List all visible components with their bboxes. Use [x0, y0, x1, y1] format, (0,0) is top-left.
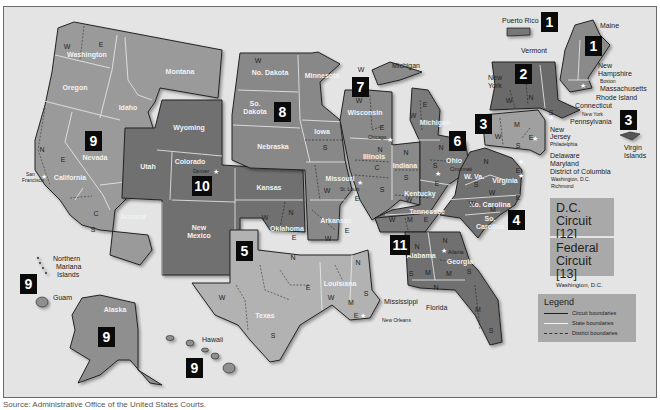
star-icon: ★ [357, 179, 363, 186]
label-vermont: Vermont [521, 47, 547, 54]
federal-circuit-title-2: Circuit [13] [556, 255, 608, 281]
label-maine: Maine [600, 22, 619, 29]
svg-text:N: N [528, 94, 533, 101]
svg-text:W: W [328, 294, 335, 301]
label-northern-mariana-2: Mariana [56, 263, 81, 270]
label-new-mexico-2: Mexico [187, 232, 211, 239]
dashed-line-icon [544, 333, 568, 334]
svg-text:E: E [355, 195, 360, 202]
label-denver: Denver [193, 168, 209, 174]
circuit-badge-6: 6 [449, 131, 466, 151]
circuit-badge-7: 7 [352, 77, 369, 97]
svg-text:W: W [356, 97, 363, 104]
label-philadelphia: Philadelphia [550, 141, 577, 147]
label-missouri: Missouri [326, 175, 355, 182]
label-washington: Washington [67, 51, 107, 59]
svg-text:M: M [475, 306, 481, 313]
svg-text:W: W [406, 196, 413, 203]
label-delaware: Delaware [550, 152, 580, 159]
svg-text:W: W [469, 200, 476, 207]
svg-text:W: W [410, 112, 417, 119]
label-st-louis: St. Louis [340, 186, 360, 192]
svg-text:E: E [354, 312, 359, 319]
label-montana: Montana [166, 68, 195, 75]
svg-text:C: C [93, 210, 98, 217]
svg-text:E: E [516, 194, 521, 201]
label-south-dakota-1: So. [250, 100, 261, 107]
label-arkansas: Arkansas [320, 217, 352, 224]
label-kansas: Kansas [257, 184, 282, 191]
svg-text:E: E [529, 134, 534, 141]
star-icon: ★ [518, 158, 524, 165]
label-arizona: Arizona [120, 213, 146, 220]
svg-text:S: S [404, 174, 409, 181]
label-alaska: Alaska [104, 306, 127, 313]
label-northern-mariana-3: Islands [57, 271, 80, 278]
star-icon: ★ [360, 312, 366, 319]
svg-text:E: E [516, 167, 521, 174]
source-note: Source: Administrative Office of the Uni… [3, 400, 206, 409]
label-idaho: Idaho [119, 104, 138, 111]
label-guam: Guam [53, 294, 72, 301]
svg-text:E: E [61, 156, 66, 163]
label-washington-dc: Washington, D.C. [551, 176, 590, 182]
label-louisiana: Louisiana [324, 280, 357, 287]
dc-circuit-box: D.C. Circuit [12] Washington, D.C. [550, 198, 614, 236]
label-hawaii: Hawaii [202, 336, 223, 343]
star-icon: ★ [213, 168, 219, 175]
svg-text:S: S [364, 290, 369, 297]
label-new-orleans: New Orleans [382, 317, 411, 323]
label-texas: Texas [255, 312, 274, 319]
label-rhode-island: Rhode Island [596, 94, 637, 101]
svg-text:M: M [348, 299, 354, 306]
circuit-badge-5: 5 [236, 241, 253, 261]
label-iowa: Iowa [314, 128, 330, 135]
label-maryland: Maryland [550, 160, 579, 168]
label-northern-mariana-1: Northern [53, 255, 80, 262]
svg-text:M: M [490, 206, 496, 213]
guam-mariana [36, 257, 48, 307]
label-new-york-1: New [488, 74, 503, 81]
label-michigan: Michigan [420, 119, 450, 127]
label-south-carolina-2: Carolina [476, 223, 504, 230]
federal-circuit-location: Washington, D.C. [556, 281, 608, 289]
star-icon: ★ [441, 247, 447, 254]
svg-text:N: N [377, 146, 382, 153]
svg-text:N: N [433, 284, 438, 291]
svg-text:W: W [262, 214, 269, 221]
label-west-virginia: W. Va. [464, 173, 484, 180]
svg-text:E: E [423, 101, 428, 108]
svg-text:M: M [446, 270, 452, 277]
label-virgin-islands-2: Islands [624, 152, 647, 159]
star-icon: ★ [41, 173, 47, 180]
svg-text:S: S [474, 181, 479, 188]
circuit-badge-8: 8 [274, 102, 291, 122]
circuit-badge-3-virgin-islands: 3 [620, 110, 637, 130]
circuit-badge-3: 3 [475, 114, 492, 134]
legend-item-district: District boundaries [544, 328, 630, 338]
svg-text:W: W [389, 216, 396, 223]
label-mississippi: Mississippi [384, 298, 418, 306]
star-icon: ★ [435, 170, 441, 177]
label-new-hampshire-2: Hampshire [598, 70, 632, 78]
svg-text:S: S [433, 162, 438, 169]
legend-item-state: State boundaries [544, 318, 630, 328]
label-district-of-columbia: District of Columbia [550, 168, 611, 175]
legend-item-circuit: Circuit boundaries [544, 308, 630, 318]
label-massachusetts: Massachusetts [600, 85, 647, 92]
label-ohio: Ohio [446, 157, 462, 164]
svg-text:N: N [288, 209, 293, 216]
label-virginia: Virginia [492, 177, 518, 185]
svg-text:S: S [516, 142, 521, 149]
label-richmond: Richmond [551, 183, 574, 189]
label-indiana: Indiana [393, 162, 418, 169]
svg-text:E: E [435, 180, 440, 187]
label-virgin-islands-1: Virgin [624, 144, 642, 152]
label-nebraska: Nebraska [257, 143, 289, 150]
label-tennessee: Tennessee [409, 208, 445, 215]
federal-circuit-box: Federal Circuit [13] Washington, D.C. [550, 238, 614, 276]
svg-text:N: N [355, 259, 360, 266]
legend: Legend Circuit boundaries State boundari… [538, 294, 636, 342]
svg-text:N: N [438, 144, 443, 151]
circuit-badge-9-hawaii: 9 [186, 358, 203, 378]
